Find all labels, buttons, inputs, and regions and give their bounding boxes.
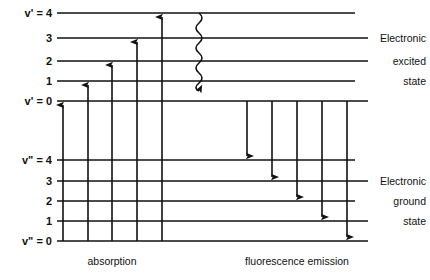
- absorption-arrows: [63, 17, 162, 241]
- ground-state-annotation: Electronic ground state: [380, 175, 426, 227]
- excited-state-level-labels: v' = 4 3 2 1 v' = 0: [25, 7, 53, 107]
- caption-absorption: absorption: [87, 255, 136, 267]
- ground-state-label-line2: ground: [393, 195, 426, 207]
- level-label-excited-v3: 3: [46, 32, 52, 44]
- fluorescence-arrows: [247, 101, 347, 237]
- ground-state-level-labels: v" = 4 3 2 1 v" = 0: [22, 154, 53, 247]
- level-label-ground-v0: v" = 0: [22, 235, 52, 247]
- level-label-ground-v4: v" = 4: [22, 154, 53, 166]
- excited-state-levels: [57, 13, 368, 101]
- level-label-ground-v1: 1: [46, 215, 52, 227]
- excited-state-label-line3: state: [403, 75, 426, 87]
- level-label-excited-v0: v' = 0: [25, 95, 52, 107]
- excited-state-annotation: Electronic excited state: [380, 32, 426, 87]
- excited-state-label-line1: Electronic: [380, 32, 426, 44]
- level-label-excited-v4: v' = 4: [25, 7, 53, 19]
- level-label-ground-v2: 2: [46, 195, 52, 207]
- ground-state-label-line1: Electronic: [380, 175, 426, 187]
- jablonski-diagram: v' = 4 3 2 1 v' = 0 v" = 4 3 2 1 v" = 0 …: [0, 0, 430, 280]
- process-captions: absorption fluorescence emission: [87, 255, 349, 267]
- caption-fluorescence: fluorescence emission: [245, 255, 349, 267]
- excited-state-label-line2: excited: [393, 55, 426, 67]
- ground-state-label-line3: state: [403, 215, 426, 227]
- energy-level-diagram-svg: v' = 4 3 2 1 v' = 0 v" = 4 3 2 1 v" = 0 …: [0, 0, 430, 280]
- level-label-excited-v2: 2: [46, 55, 52, 67]
- level-label-excited-v1: 1: [46, 75, 52, 87]
- vibrational-relaxation-wavy-arrow: [196, 13, 202, 91]
- wavy-relaxation-path: [196, 13, 202, 91]
- level-label-ground-v3: 3: [46, 175, 52, 187]
